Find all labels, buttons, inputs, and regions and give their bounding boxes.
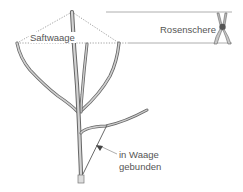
rosenschere-label: Rosenschere [160,24,216,35]
callout-arrow [96,145,117,154]
right-branch [82,43,119,110]
tie-label-line1: in Waage [119,149,159,160]
left-branch [17,43,78,112]
graft-band [78,175,84,183]
tied-side-branch [81,110,147,133]
pruning-shears-icon [214,13,231,44]
inner-shoot [81,44,87,112]
binding-string [83,125,107,174]
saftwaage-label: Saftwaage [29,32,76,43]
tie-label-line2: gebunden [119,161,161,172]
